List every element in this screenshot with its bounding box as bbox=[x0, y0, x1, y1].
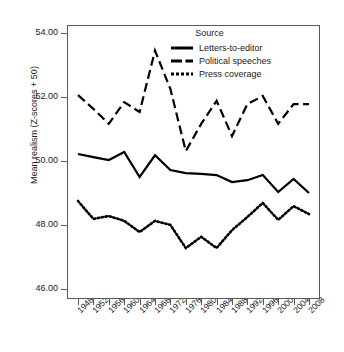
legend: Source Letters-to-editorPolitical speech… bbox=[170, 28, 271, 80]
legend-entries: Letters-to-editorPolitical speechesPress… bbox=[170, 41, 271, 80]
legend-key-swatch bbox=[170, 56, 194, 66]
series-line bbox=[78, 152, 309, 193]
legend-label: Political speeches bbox=[199, 56, 271, 66]
y-axis-tick-label: 50.00 bbox=[0, 155, 58, 165]
series-line bbox=[78, 201, 309, 248]
legend-item: Political speeches bbox=[170, 54, 271, 67]
y-axis-tick-label: 46.00 bbox=[0, 283, 58, 293]
y-axis-title: Mean realism (Z-scores + 50) bbox=[29, 45, 39, 205]
legend-key-swatch bbox=[170, 69, 194, 79]
legend-item: Letters-to-editor bbox=[170, 41, 271, 54]
legend-item: Press coverage bbox=[170, 67, 271, 80]
legend-label: Letters-to-editor bbox=[199, 43, 263, 53]
chart-figure: Mean realism (Z-scores + 50) 46.0048.005… bbox=[0, 0, 344, 352]
legend-title: Source bbox=[170, 28, 271, 38]
y-axis-tick-label: 48.00 bbox=[0, 219, 58, 229]
y-axis-tick-label: 52.00 bbox=[0, 91, 58, 101]
y-axis-tick-label: 54.00 bbox=[0, 27, 58, 37]
legend-key-swatch bbox=[170, 43, 194, 53]
legend-label: Press coverage bbox=[199, 69, 262, 79]
